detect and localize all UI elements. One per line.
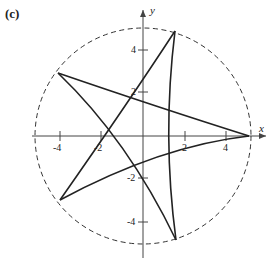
edge-top-lowerleft — [60, 31, 175, 200]
x-tick-label: 4 — [223, 142, 228, 153]
y-tick-label: -4 — [127, 216, 135, 227]
x-tick-label: -4 — [53, 142, 61, 153]
x-tick-label: -2 — [94, 142, 102, 153]
y-tick-label: -2 — [127, 172, 135, 183]
figure-canvas — [0, 0, 272, 263]
x-axis-label: x — [259, 122, 264, 134]
y-tick-label: 4 — [131, 44, 136, 55]
edge-right-upperleft — [58, 73, 249, 136]
y-tick-label: 2 — [131, 86, 136, 97]
edge-right-lowerleft — [60, 136, 249, 200]
y-axis-arrow-icon — [140, 10, 146, 17]
x-tick-label: 2 — [182, 142, 187, 153]
y-axis-label: y — [150, 4, 155, 16]
